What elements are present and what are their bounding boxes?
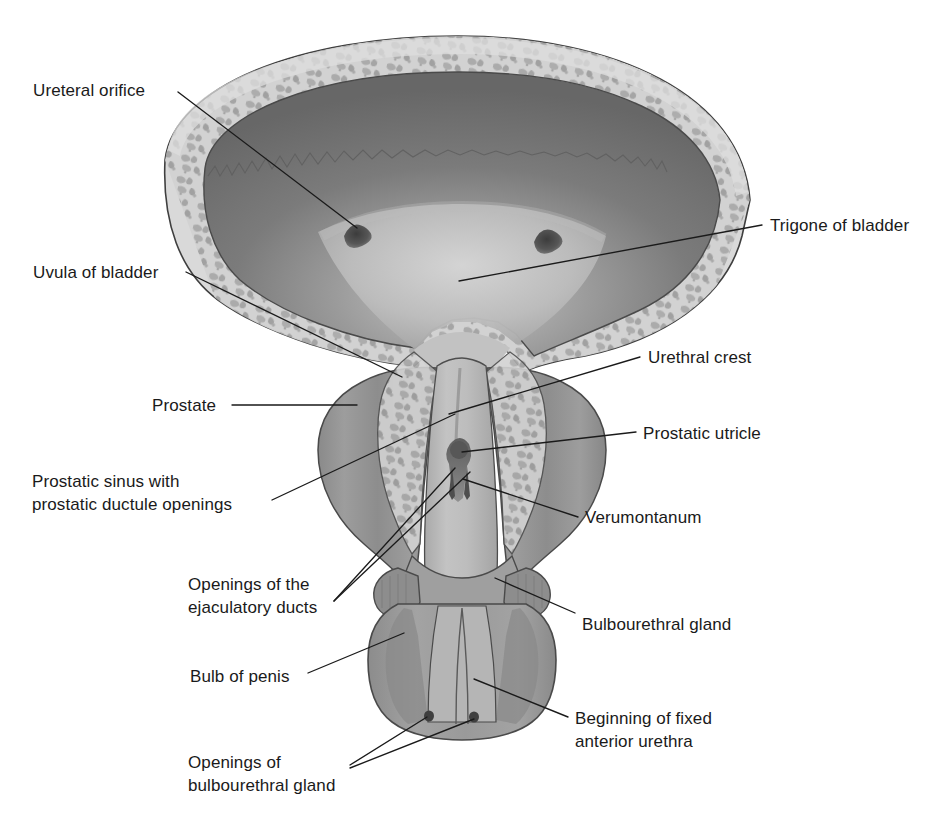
bladder-group	[165, 36, 750, 398]
label-uvula-of-bladder: Uvula of bladder	[33, 262, 158, 284]
label-prostate: Prostate	[152, 395, 216, 417]
label-ureteral-orifice: Ureteral orifice	[33, 80, 145, 102]
label-beginning-urethra-line2: anterior urethra	[575, 731, 693, 753]
label-openings-bulbourethral-line2: bulbourethral gland	[188, 775, 335, 797]
prostate-gland	[318, 352, 606, 592]
label-trigone-of-bladder: Trigone of bladder	[770, 215, 909, 237]
label-verumontanum: Verumontanum	[585, 507, 702, 529]
figure-canvas: Ureteral orifice Uvula of bladder Prosta…	[0, 0, 944, 827]
label-ejaculatory-ducts-line1: Openings of the	[188, 574, 310, 596]
bulb-of-penis-structure	[368, 604, 556, 740]
label-prostatic-utricle: Prostatic utricle	[643, 423, 761, 445]
label-openings-bulbourethral-line1: Openings of	[188, 752, 281, 774]
label-bulb-of-penis: Bulb of penis	[190, 666, 290, 688]
label-urethral-crest: Urethral crest	[648, 347, 751, 369]
anatomy-illustration	[0, 0, 944, 827]
label-beginning-urethra-line1: Beginning of fixed	[575, 708, 712, 730]
label-prostatic-sinus-line1: Prostatic sinus with	[32, 471, 180, 493]
label-ejaculatory-ducts-line2: ejaculatory ducts	[188, 597, 317, 619]
prostatic-utricle	[450, 441, 468, 459]
bulbar-urethra	[428, 606, 496, 722]
label-prostatic-sinus-line2: prostatic ductule openings	[32, 494, 232, 516]
bulbourethral-opening-left	[424, 711, 434, 722]
label-bulbourethral-gland: Bulbourethral gland	[582, 614, 731, 636]
openings-bulb-leader-a	[350, 717, 427, 765]
